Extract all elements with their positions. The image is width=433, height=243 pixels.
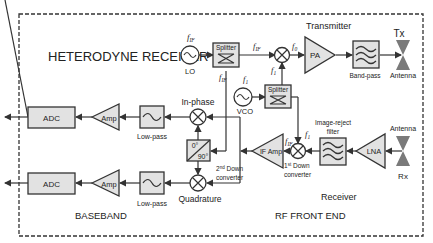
vco-freq-label: f1 — [243, 74, 248, 85]
rx-f1-label: f1 — [305, 129, 310, 140]
rx-antenna-label: Antenna — [390, 125, 416, 132]
heterodyne-diagram: HETERODYNE RECEIVER BASEBAND RF FRONT EN… — [0, 0, 433, 243]
lna-label: LNA — [367, 147, 382, 156]
first-down-label-1: 1st Down — [284, 162, 310, 169]
image-reject-label-1: Image-reject — [315, 119, 351, 127]
phase-90-label: 90° — [198, 153, 209, 160]
tx-label: Tx — [393, 28, 404, 39]
f1-mixer-label: f1 — [271, 65, 276, 76]
f0-label: f0 — [292, 41, 297, 52]
baseband-label: BASEBAND — [75, 210, 127, 221]
rx-antenna-icon — [396, 136, 410, 151]
rf-front-end-label: RF FRONT END — [275, 210, 346, 221]
lowpass-top-label: Low-pass — [137, 133, 167, 141]
splitter-top-label: Splitter — [216, 44, 237, 52]
split-right-freq: fIF — [253, 41, 261, 52]
adc-top-label: ADC — [43, 114, 60, 123]
second-down-label-1: 2nd Down — [216, 165, 243, 172]
pa-label: PA — [310, 51, 321, 60]
adc-bottom-label: ADC — [43, 180, 60, 189]
lo-label: LO — [185, 67, 195, 76]
vco-label: VCO — [237, 107, 253, 116]
amp-bottom-label: Amp — [101, 180, 116, 189]
image-reject-label-2: filter — [327, 128, 340, 135]
transmitter-label: Transmitter — [306, 21, 351, 31]
bandpass-label: Band-pass — [349, 72, 381, 80]
if-amp-label: IF Amp — [260, 148, 282, 156]
receiver-label: Receiver — [321, 192, 357, 202]
tx-antenna-icon — [396, 40, 410, 55]
tx-antenna-label: Antenna — [390, 72, 416, 79]
rx-fif-label: fIF — [285, 136, 293, 147]
amp-top-label: Amp — [101, 114, 116, 123]
inphase-label: In-phase — [181, 97, 214, 107]
phase-0-label: 0° — [192, 142, 199, 149]
first-down-label-2: converter — [284, 171, 312, 178]
lo-freq-label: fIF — [187, 32, 195, 43]
lowpass-bottom-label: Low-pass — [137, 200, 167, 208]
quadrature-label: Quadrature — [179, 194, 222, 204]
splitter-bottom-label: Splitter — [268, 86, 289, 94]
rx-label: Rx — [398, 172, 408, 181]
